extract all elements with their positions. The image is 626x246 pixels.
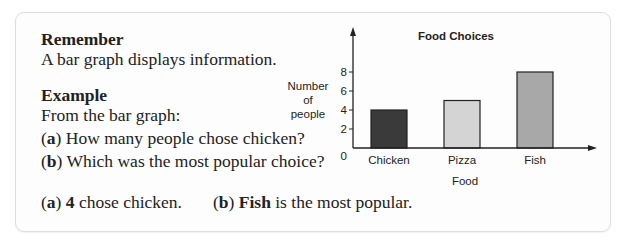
- bar-fish: [517, 72, 553, 148]
- y-axis-label-line-3: people: [291, 108, 326, 120]
- y-tick-label: 8: [341, 66, 347, 78]
- origin-label: 0: [341, 150, 347, 162]
- x-tick-label-chicken: Chicken: [368, 154, 410, 166]
- x-tick-label-fish: Fish: [524, 154, 546, 166]
- bar-chicken: [371, 110, 407, 148]
- y-tick-label: 2: [341, 123, 347, 135]
- y-tick-label: 6: [341, 85, 347, 97]
- x-tick-labels: ChickenPizzaFish: [368, 154, 546, 166]
- bar-pizza: [444, 101, 480, 149]
- y-axis-label-line-2: of: [303, 94, 313, 106]
- y-axis-label-line-1: Number: [288, 80, 329, 92]
- bar-chart: Food Choices Number of people 2468 0 Chi…: [0, 0, 626, 246]
- x-tick-label-pizza: Pizza: [448, 154, 477, 166]
- x-axis-label: Food: [452, 175, 478, 187]
- y-axis-label: Number of people: [288, 80, 329, 120]
- bars: [371, 72, 553, 148]
- y-tick-label: 4: [341, 104, 348, 116]
- y-ticks: 2468: [341, 66, 353, 135]
- y-axis-arrow-icon: [350, 27, 356, 36]
- x-axis-arrow-icon: [588, 145, 597, 151]
- chart-title: Food Choices: [418, 30, 494, 42]
